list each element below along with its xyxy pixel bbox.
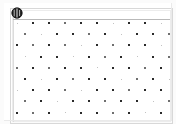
grid-dot <box>40 100 42 102</box>
grid-dot <box>88 100 90 102</box>
grid-dot <box>57 101 58 102</box>
grid-dot <box>81 45 82 46</box>
grid-dot <box>24 33 26 35</box>
grid-dot <box>72 78 74 80</box>
document-viewer <box>0 0 176 124</box>
grid-dot <box>136 78 138 80</box>
grid-dot <box>88 33 90 35</box>
grid-dot <box>136 100 138 102</box>
grid-dot <box>104 56 106 58</box>
grid-dot <box>32 112 34 114</box>
grid-dot <box>16 44 18 46</box>
grid-dot <box>121 34 122 35</box>
grid-dot <box>17 23 18 24</box>
grid-dot <box>40 56 42 58</box>
grid-dot <box>56 33 58 35</box>
grid-dot <box>24 78 26 80</box>
grid-dot <box>128 89 130 91</box>
grid-dot <box>88 56 90 58</box>
grid-dot <box>120 56 122 58</box>
left-margin-rule <box>13 10 14 122</box>
grid-dot <box>16 112 18 114</box>
grid-dot <box>88 78 90 80</box>
grid-dot <box>161 45 162 46</box>
grid-dot <box>128 67 130 69</box>
grid-dot <box>168 56 170 58</box>
grid-dot <box>65 112 66 113</box>
grid-dot <box>96 44 98 46</box>
grid-dot <box>80 22 82 24</box>
grid-dot <box>144 67 146 69</box>
grid-dot <box>32 44 34 46</box>
grid-dot <box>48 22 50 24</box>
grid-dot <box>144 44 146 46</box>
grid-dot <box>48 44 50 46</box>
grid-dot <box>161 23 162 24</box>
grid-dot <box>128 22 130 24</box>
grid-dot <box>64 44 66 46</box>
grid-dot <box>169 79 170 80</box>
grid-dot <box>136 33 138 35</box>
grid-dot <box>32 22 34 24</box>
grid-dot <box>72 100 74 102</box>
grid-dot <box>112 67 114 69</box>
grid-dot <box>64 22 66 24</box>
grid-dot <box>96 112 98 114</box>
grid-dot <box>104 100 106 102</box>
grid-dot <box>128 112 130 114</box>
grid-dot <box>48 67 50 69</box>
grid-dot <box>41 79 42 80</box>
grid-dot <box>112 44 114 46</box>
grid-dot <box>32 67 34 69</box>
grid-dot <box>16 67 18 69</box>
grid-dot <box>64 67 66 69</box>
grid-dot <box>97 67 98 68</box>
grid-dot <box>80 112 82 114</box>
grid-dot <box>121 79 122 80</box>
scan-edge-bottom <box>4 120 172 121</box>
grid-dot <box>145 112 146 113</box>
grid-dot <box>104 78 106 80</box>
header-rule <box>13 19 170 20</box>
grid-dot <box>144 89 146 91</box>
scan-edge-right <box>171 3 172 121</box>
dot-grid <box>4 3 172 121</box>
grid-dot <box>152 56 154 58</box>
grid-dot <box>160 112 162 114</box>
grid-dot <box>80 67 82 69</box>
grid-dot <box>120 100 122 102</box>
grid-dot <box>112 112 114 114</box>
grid-dot <box>112 89 114 91</box>
grid-dot <box>25 56 26 57</box>
grid-dot <box>96 22 98 24</box>
grid-dot <box>64 89 66 91</box>
grid-dot <box>128 44 130 46</box>
grid-dot <box>72 33 74 35</box>
grid-dot <box>24 100 26 102</box>
grid-dot <box>48 112 50 114</box>
grid-dot <box>81 90 82 91</box>
grid-dot <box>56 56 58 58</box>
grid-dot <box>17 90 18 91</box>
grid-dot <box>113 23 114 24</box>
grid-dot <box>104 33 106 35</box>
grid-dot <box>48 89 50 91</box>
stamp-icon <box>11 7 23 19</box>
grid-dot <box>96 89 98 91</box>
grid-dot <box>41 34 42 35</box>
grid-dot <box>152 78 154 80</box>
grid-dot <box>168 100 170 102</box>
grid-dot <box>160 89 162 91</box>
grid-dot <box>144 22 146 24</box>
grid-dot <box>152 33 154 35</box>
grid-dot <box>168 33 170 35</box>
grid-dot <box>32 89 34 91</box>
scanned-sheet <box>4 3 172 121</box>
grid-dot <box>160 67 162 69</box>
grid-dot <box>56 78 58 80</box>
grid-dot <box>153 101 154 102</box>
grid-dot <box>73 56 74 57</box>
grid-dot <box>137 56 138 57</box>
